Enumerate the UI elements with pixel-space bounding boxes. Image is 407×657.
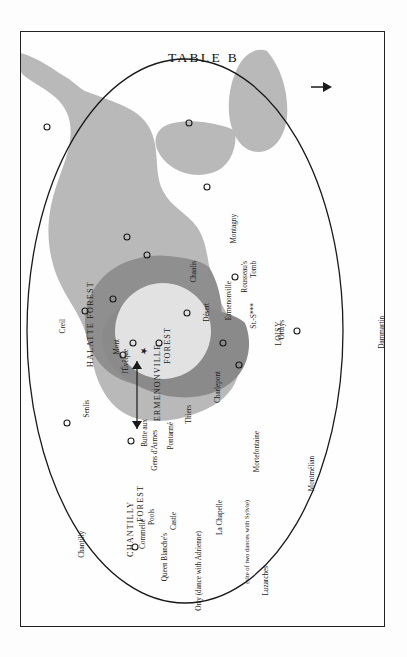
label-creil: Creil (59, 319, 67, 333)
label-montmelian: Montmélian (308, 456, 316, 491)
sylvie-dance-star-marker: ★ (139, 347, 149, 355)
label-montagny: Montagny (230, 214, 238, 244)
label-mont-leveque-line2: l'Évêque (122, 349, 130, 374)
halatte-forest-shape (229, 50, 288, 152)
label-butte-line2: Gens d'Armes (151, 430, 159, 471)
label-luzarches: Luzarches (262, 566, 270, 596)
marker-mont-leveque (204, 184, 210, 190)
svg-text:★: ★ (139, 347, 149, 355)
label-charlepont: Charlepont (214, 371, 222, 403)
page-root: TABLE B (0, 0, 407, 657)
label-mont-leveque-line1: Mont (113, 339, 121, 355)
label-la-chapelle: La Chapelle (216, 500, 224, 535)
marker-montagny (294, 328, 300, 334)
label-orry-dance-with-adrienne: Orry (dance with Adrienne) (195, 531, 203, 611)
label-commelle-line1: Commelle (139, 519, 147, 549)
label-queen-blanches-castle-line1: Queen Blanche's (161, 533, 169, 581)
marker-orthys (128, 438, 134, 444)
label-st-s: St.-S*** (249, 303, 258, 329)
label-desert: Désert (203, 303, 211, 322)
label-queen-blanches-castle-line2: Castle (170, 512, 178, 530)
map-plate: ★ HALATTE FOREST CHANTILLY FOREST ERMENO… (20, 31, 385, 627)
label-mortefontaine: Mortefontaine (253, 431, 261, 472)
creil-direction-arrow (311, 82, 332, 92)
label-commelle-line2: Pools (148, 509, 156, 525)
label-chantilly: Chantilly (78, 531, 86, 558)
label-thiers: Thiers (185, 405, 193, 423)
label-halatte-forest: HALATTE FOREST (86, 281, 95, 367)
label-senlis: Senlis (83, 400, 91, 418)
label-chantilly-forest-line1: CHANTILLY (126, 501, 135, 557)
label-chaalis: Chaalis (190, 261, 198, 283)
label-pontarme: Pontarmé (167, 422, 175, 450)
label-orthys: Orthys (278, 320, 286, 340)
label-ermenonville: Ermenonville (225, 281, 233, 320)
label-chantilly-forest-line2: FOREST (136, 485, 145, 522)
label-rousseaus-tomb-line2: Tomb (250, 261, 258, 278)
marker-chantilly (44, 124, 50, 130)
label-dammartin: Dammartin (378, 316, 385, 349)
label-ermenonville-forest-line1: ERMENONVILLE (153, 344, 162, 421)
marker-chaalis (232, 274, 238, 280)
forest-isthmus-shape (155, 121, 235, 175)
label-rousseaus-tomb-line1: Rousseau's (241, 261, 249, 293)
label-ermenonville-forest-line2: FOREST (163, 327, 172, 364)
label-sylvie-dance-note: (site of two dances with Sylvie) (243, 500, 250, 584)
marker-montmelian (64, 420, 70, 426)
label-butte-line1: Butte aux (141, 419, 149, 447)
